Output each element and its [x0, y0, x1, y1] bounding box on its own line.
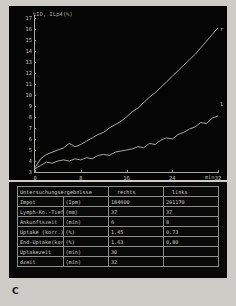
- header-label: Untersuchungsergebnisse: [18, 187, 109, 197]
- row-unit: (%): [63, 227, 109, 237]
- header-left: links: [164, 187, 219, 197]
- row-value-left: 8: [164, 217, 219, 227]
- row-value-right: 184600: [109, 197, 164, 207]
- row-label: dzeit: [18, 257, 64, 267]
- row-label: Uptake (korr.): [18, 227, 64, 237]
- row-unit: (min): [63, 247, 109, 257]
- row-unit: (Ipm): [63, 197, 109, 207]
- table-row: End-Uptake(korr.)(%)1.630.80: [18, 237, 219, 247]
- table-row: Impot(Ipm)184600201170: [18, 197, 219, 207]
- series-l-line: [35, 116, 218, 169]
- y-tick-mark: [34, 128, 36, 129]
- y-tick-mark: [34, 51, 36, 52]
- y-tick-mark: [34, 161, 36, 162]
- y-tick-mark: [34, 139, 36, 140]
- row-value-right: 1.63: [109, 237, 164, 247]
- table-row: dzeit(min)32: [18, 257, 219, 267]
- row-value-left: 201170: [164, 197, 219, 207]
- y-tick-mark: [34, 150, 36, 151]
- row-value-left: 0.73: [164, 227, 219, 237]
- row-value-right: 37: [109, 207, 164, 217]
- table-row: Uptakezeit(min)30: [18, 247, 219, 257]
- table-header-row: Untersuchungsergebnisse rechts links: [18, 187, 219, 197]
- row-label: Impot: [18, 197, 64, 207]
- y-tick-mark: [34, 84, 36, 85]
- y-tick-mark: [34, 40, 36, 41]
- row-unit: (%): [63, 237, 109, 247]
- row-label: Ankunftszeit: [18, 217, 64, 227]
- row-value-left: [164, 247, 219, 257]
- screenshot-root: %ID, ILp4(%) 34567891011121314151617 081…: [0, 0, 236, 306]
- results-table-body: Untersuchungsergebnisse rechts links Imp…: [18, 187, 219, 267]
- row-unit: (min): [63, 257, 109, 267]
- y-tick-mark: [34, 117, 36, 118]
- series-l-label: l: [220, 101, 223, 107]
- table-row: Uptake (korr.)(%)1.450.73: [18, 227, 219, 237]
- y-tick-mark: [34, 18, 36, 19]
- table-row: Lymph-Kn.-Tiefe(mm)3737: [18, 207, 219, 217]
- header-right: rechts: [109, 187, 164, 197]
- row-value-right: 30: [109, 247, 164, 257]
- row-value-left: 37: [164, 207, 219, 217]
- x-axis-unit-label: min: [205, 174, 214, 180]
- series-r-line: [35, 28, 218, 168]
- row-value-right: 6: [109, 217, 164, 227]
- series-r-label: r: [220, 26, 223, 32]
- row-label: Uptakezeit: [18, 247, 64, 257]
- y-tick-mark: [34, 73, 36, 74]
- row-label: End-Uptake(korr.): [18, 237, 64, 247]
- y-tick-mark: [34, 106, 36, 107]
- table-row: Ankunftszeit(min)68: [18, 217, 219, 227]
- row-value-right: 1.45: [109, 227, 164, 237]
- results-table-panel: Untersuchungsergebnisse rechts links Imp…: [9, 182, 227, 278]
- y-tick-mark: [34, 95, 36, 96]
- series-curves: [9, 6, 227, 180]
- row-unit: (min): [63, 217, 109, 227]
- y-tick-mark: [34, 29, 36, 30]
- panel-letter: C: [12, 286, 19, 296]
- y-tick-mark: [34, 62, 36, 63]
- row-value-left: [164, 257, 219, 267]
- row-value-left: 0.80: [164, 237, 219, 247]
- row-unit: (mm): [63, 207, 109, 217]
- row-value-right: 32: [109, 257, 164, 267]
- chart-panel: %ID, ILp4(%) 34567891011121314151617 081…: [9, 6, 227, 180]
- row-label: Lymph-Kn.-Tiefe: [18, 207, 64, 217]
- y-tick-mark: [34, 172, 36, 173]
- results-table: Untersuchungsergebnisse rechts links Imp…: [17, 186, 219, 267]
